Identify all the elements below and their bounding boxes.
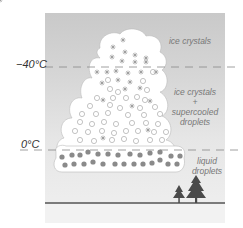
mixed-line1: ice crystals (165, 87, 225, 97)
mixed-line2: supercooled (165, 107, 225, 117)
tree-icon (173, 175, 206, 203)
mixed-plus: + (165, 97, 225, 107)
liquid-droplets-label: liquid droplets (182, 156, 232, 176)
zero-label: 0°C (21, 138, 39, 150)
liquid-line2: droplets (182, 166, 232, 176)
liquid-line1: liquid (182, 156, 232, 166)
liquid-cloud-base (54, 145, 185, 172)
mixed-line3: droplets (165, 117, 225, 127)
ice-crystals-label: ice crystals (160, 36, 220, 46)
minus40-label: −40°C (16, 58, 47, 70)
mixed-phase-label: ice crystals + supercooled droplets (165, 87, 225, 127)
ground-area (45, 204, 225, 223)
cloud-body (57, 29, 175, 156)
